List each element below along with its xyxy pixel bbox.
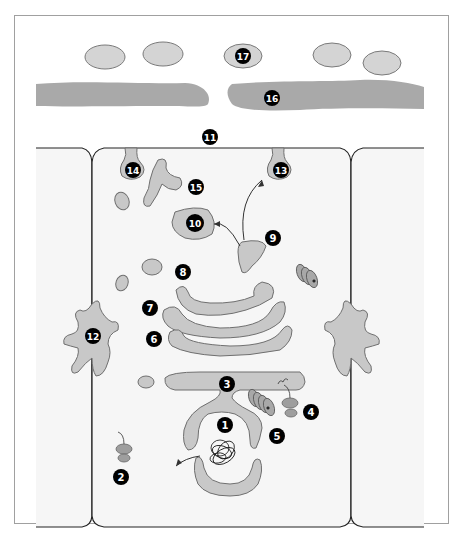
svg-text:9: 9 [270,233,277,244]
svg-text:10: 10 [189,219,202,229]
label-3: 3 [219,376,235,392]
svg-text:5: 5 [274,431,281,442]
svg-text:2: 2 [118,472,125,483]
label-5: 5 [269,428,285,444]
cell-diagram: 1 2 3 4 5 6 7 8 9 10 11 12 13 14 15 16 1… [0,0,468,548]
svg-text:8: 8 [180,267,187,278]
label-4: 4 [303,404,319,420]
svg-text:16: 16 [266,94,279,104]
label-10: 10 [186,214,204,232]
label-9: 9 [265,230,281,246]
svg-text:13: 13 [275,166,288,176]
svg-text:14: 14 [127,166,140,176]
svg-text:11: 11 [204,133,217,143]
label-13: 13 [273,162,289,178]
label-15: 15 [188,179,204,195]
svg-text:15: 15 [190,183,203,193]
label-12: 12 [85,328,101,344]
label-17: 17 [235,48,251,64]
label-8: 8 [175,264,191,280]
label-2: 2 [113,469,129,485]
label-6: 6 [146,331,162,347]
label-14: 14 [125,162,141,178]
svg-text:12: 12 [87,332,100,342]
svg-text:7: 7 [147,303,154,314]
label-7: 7 [142,300,158,316]
label-16: 16 [264,90,280,106]
label-1: 1 [217,417,233,433]
svg-text:6: 6 [151,334,158,345]
svg-text:1: 1 [222,420,229,431]
svg-text:4: 4 [308,407,315,418]
svg-text:3: 3 [224,379,231,390]
svg-text:17: 17 [237,52,250,62]
label-11: 11 [202,129,218,145]
